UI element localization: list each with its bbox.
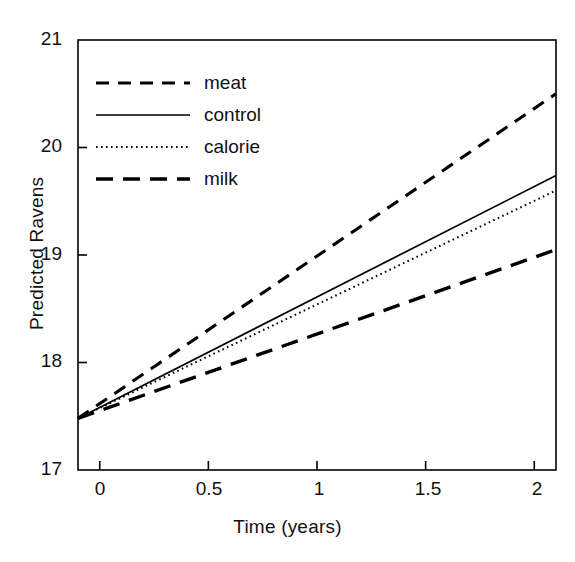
y-tick-label-18: 18 [28, 350, 62, 372]
y-tick-label-21: 21 [28, 28, 62, 50]
x-tick-label-2: 2 [512, 478, 562, 500]
series-line-meat [78, 94, 556, 419]
x-tick-label-1-5: 1.5 [403, 478, 453, 500]
y-tick-label-20: 20 [28, 135, 62, 157]
series-line-milk [78, 250, 556, 419]
chart-figure: 21 20 19 18 17 0 0.5 1 1.5 2 Predicted R… [0, 0, 575, 562]
y-axis-title: Predicted Ravens [26, 177, 48, 330]
legend-label-milk: milk [204, 168, 238, 190]
y-tick-label-17: 17 [28, 458, 62, 480]
legend-label-calorie: calorie [204, 136, 260, 158]
data-series-group [78, 94, 556, 419]
legend-label-control: control [204, 104, 261, 126]
series-line-calorie [78, 191, 556, 419]
legend-swatch-group [96, 83, 190, 179]
x-tick-label-0-5: 0.5 [184, 478, 234, 500]
legend-label-meat: meat [204, 72, 246, 94]
series-line-control [78, 175, 556, 418]
x-tick-label-0: 0 [75, 478, 125, 500]
y-axis-ticks [78, 148, 87, 363]
x-axis-ticks [100, 461, 535, 470]
x-axis-title: Time (years) [0, 516, 575, 538]
x-tick-label-1: 1 [294, 478, 344, 500]
